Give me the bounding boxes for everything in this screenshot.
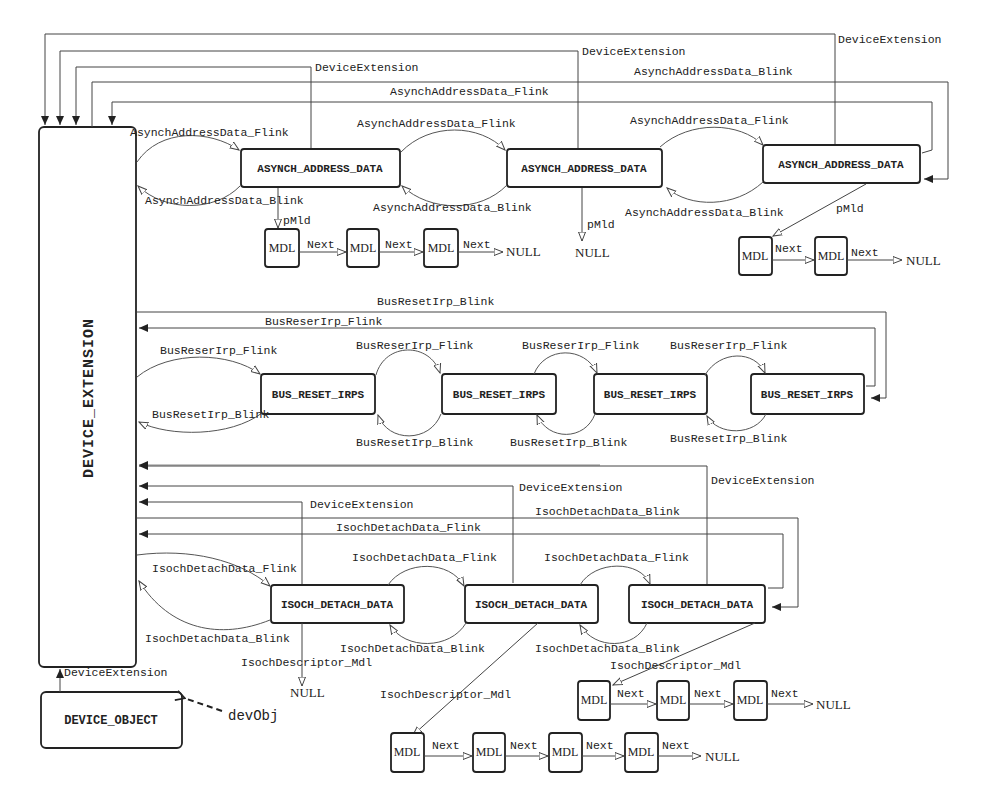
isoch3-mdl-2[interactable]: MDL xyxy=(657,681,689,720)
mdl-label: MDL xyxy=(581,693,608,707)
devobj-label: devObj xyxy=(228,708,278,724)
bus-long-blink-label: BusResetIrp_Blink xyxy=(377,295,494,308)
isoch-long-flink-label: IsochDetachData_Flink xyxy=(336,521,481,534)
device-object-node[interactable]: DEVICE_OBJECT xyxy=(41,692,182,748)
asynch2-pmdl-label: pMld xyxy=(587,218,615,231)
asynch-long-flink-label: AsynchAddressData_Flink xyxy=(390,85,549,98)
mdl-next-label: Next xyxy=(662,739,690,752)
mdl-next-label: Next xyxy=(617,687,645,700)
isoch-node-2-label: ISOCH_DETACH_DATA xyxy=(475,599,588,611)
bus1-ext-blink-label: BusResetIrp_Blink xyxy=(152,408,269,421)
isoch-node-1[interactable]: ISOCH_DETACH_DATA xyxy=(271,585,404,623)
isoch-long-blink-label: IsochDetachData_Blink xyxy=(535,505,680,518)
bus-node-1[interactable]: BUS_RESET_IRPS xyxy=(261,374,375,414)
bus3-to-bus4-flink xyxy=(705,356,765,375)
isoch2-descriptor-arrow xyxy=(413,623,538,735)
isoch-node-2[interactable]: ISOCH_DETACH_DATA xyxy=(465,585,598,623)
asynch1-ext-blink-label: AsynchAddressData_Blink xyxy=(145,194,304,207)
null-terminator: NULL xyxy=(906,253,941,268)
isoch2-isoch1-blink-label: IsochDetachData_Blink xyxy=(340,642,485,655)
isoch3-mdl-1[interactable]: MDL xyxy=(578,681,610,720)
mdl-next-label: Next xyxy=(463,238,491,251)
isoch2-mdl-2[interactable]: MDL xyxy=(473,733,505,772)
isoch1-descriptor-label: IsochDescriptor_Mdl xyxy=(241,656,372,669)
bus2-to-bus3-flink xyxy=(534,353,597,374)
asynch-node-3[interactable]: ASYNCH_ADDRESS_DATA xyxy=(763,145,920,183)
isoch2-to-isoch1-blink xyxy=(390,623,466,644)
bus-node-1-label: BUS_RESET_IRPS xyxy=(272,389,365,401)
asynch1-mdl-1[interactable]: MDL xyxy=(265,229,299,267)
mdl-label: MDL xyxy=(428,241,455,255)
null-terminator: NULL xyxy=(506,244,541,259)
isoch2-mdl-4[interactable]: MDL xyxy=(625,733,658,772)
ext-isoch1-flink-label: IsochDetachData_Flink xyxy=(152,562,297,575)
asynch3-mdl-2[interactable]: MDL xyxy=(815,237,847,275)
isoch1-to-ext-blink xyxy=(139,581,270,630)
isoch2-mdl-3[interactable]: MDL xyxy=(549,733,582,772)
isoch2-isoch3-flink-label: IsochDetachData_Flink xyxy=(544,551,689,564)
mdl-next-label: Next xyxy=(694,687,722,700)
device-object-label: DEVICE_OBJECT xyxy=(64,714,158,728)
mdl-next-label: Next xyxy=(851,246,879,259)
asynch3-device-extension-label: DeviceExtension xyxy=(838,33,942,46)
isoch-node-3[interactable]: ISOCH_DETACH_DATA xyxy=(629,585,765,623)
isoch3-isoch2-blink-label: IsochDetachData_Blink xyxy=(535,642,680,655)
mdl-next-label: Next xyxy=(586,739,614,752)
mdl-label: MDL xyxy=(394,745,421,759)
isoch1-to-isoch2-flink xyxy=(388,566,464,586)
bus2-bus3-flink-label: BusReserIrp_Flink xyxy=(522,339,639,352)
asynch3-mdl-1[interactable]: MDL xyxy=(739,237,772,275)
asynch2-asynch1-blink-label: AsynchAddressData_Blink xyxy=(373,201,532,214)
isoch1-ext-blink-label: IsochDetachData_Blink xyxy=(145,632,290,645)
ext-to-bus1-flink xyxy=(137,357,260,377)
bus4-bus3-blink-label: BusResetIrp_Blink xyxy=(670,432,787,445)
device-extension-diagram: DEVICE_EXTENSION DEVICE_OBJECT DeviceExt… xyxy=(0,0,989,803)
devobj-dashed-arrow xyxy=(184,698,222,711)
isoch2-mdl-1[interactable]: MDL xyxy=(391,733,424,772)
asynch1-device-extension-label: DeviceExtension xyxy=(315,61,419,74)
isoch3-mdl-3[interactable]: MDL xyxy=(734,681,767,720)
asynch1-pmdl-label: pMld xyxy=(283,214,311,227)
bus-node-3[interactable]: BUS_RESET_IRPS xyxy=(594,374,707,414)
isoch2-descriptor-label: IsochDescriptor_Mdl xyxy=(380,688,511,701)
asynch-node-2-label: ASYNCH_ADDRESS_DATA xyxy=(521,163,647,175)
bus-node-4[interactable]: BUS_RESET_IRPS xyxy=(751,374,864,414)
isoch-node-1-label: ISOCH_DETACH_DATA xyxy=(281,599,394,611)
isoch3-to-isoch2-blink xyxy=(580,623,647,644)
mdl-next-label: Next xyxy=(307,238,335,251)
bus3-bus2-blink-label: BusResetIrp_Blink xyxy=(510,436,627,449)
ext-to-asynch1-flink xyxy=(137,136,239,162)
mdl-label: MDL xyxy=(476,745,503,759)
bus1-to-bus2-flink xyxy=(376,350,440,375)
asynch1-to-asynch2-flink xyxy=(401,130,505,152)
null-terminator: NULL xyxy=(290,685,325,700)
null-terminator: NULL xyxy=(575,245,610,260)
asynch2-device-extension-label: DeviceExtension xyxy=(582,45,686,58)
null-terminator: NULL xyxy=(816,697,851,712)
asynch3-asynch2-blink-label: AsynchAddressData_Blink xyxy=(625,206,784,219)
bus2-to-bus1-blink xyxy=(378,414,441,436)
asynch-node-1[interactable]: ASYNCH_ADDRESS_DATA xyxy=(241,149,400,187)
isoch1-isoch2-flink-label: IsochDetachData_Flink xyxy=(352,551,497,564)
isoch3-device-extension-label: DeviceExtension xyxy=(711,474,815,487)
isoch2-to-isoch3-flink xyxy=(580,566,650,585)
device-extension-label: DEVICE_EXTENSION xyxy=(81,318,98,478)
isoch-node-3-label: ISOCH_DETACH_DATA xyxy=(641,599,754,611)
mdl-label: MDL xyxy=(818,249,845,263)
mdl-label: MDL xyxy=(742,249,769,263)
bus-node-3-label: BUS_RESET_IRPS xyxy=(604,389,697,401)
null-terminator: NULL xyxy=(705,749,740,764)
asynch1-mdl-2[interactable]: MDL xyxy=(347,229,379,267)
mdl-label: MDL xyxy=(737,693,764,707)
asynch-node-2[interactable]: ASYNCH_ADDRESS_DATA xyxy=(507,149,662,187)
asynch-node-3-label: ASYNCH_ADDRESS_DATA xyxy=(778,159,904,171)
mdl-label: MDL xyxy=(350,241,377,255)
bus3-bus4-flink-label: BusReserIrp_Flink xyxy=(670,339,787,352)
device-extension-node[interactable]: DEVICE_EXTENSION xyxy=(39,127,136,667)
bus-node-2[interactable]: BUS_RESET_IRPS xyxy=(442,374,556,414)
mdl-next-label: Next xyxy=(432,739,460,752)
isoch3-descriptor-label: IsochDescriptor_Mdl xyxy=(610,659,741,672)
bus3-to-bus2-blink xyxy=(537,414,595,434)
asynch1-mdl-3[interactable]: MDL xyxy=(424,229,458,267)
mdl-label: MDL xyxy=(552,745,579,759)
